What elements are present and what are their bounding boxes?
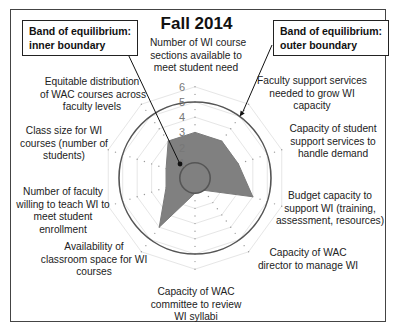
callout-inner-line2: inner boundary xyxy=(29,38,131,52)
axis-label-line: classroom space for WI xyxy=(40,254,148,267)
axis-label-line: enrollment xyxy=(12,224,114,237)
axis-label-line: Equitable distribution xyxy=(40,76,144,89)
axis-label-faculty-support: Faculty support services needed to grow … xyxy=(252,75,372,113)
axis-label-line: courses xyxy=(40,266,148,279)
axis-label-line: meet student need xyxy=(150,62,242,75)
axis-label-wi-sections: Number of WI course sections available t… xyxy=(150,37,242,75)
axis-label-budget: Budget capacity to support WI (training,… xyxy=(272,190,388,228)
callout-inner-boundary: Band of equilibrium: inner boundary xyxy=(22,20,138,56)
svg-text:3: 3 xyxy=(179,126,185,138)
axis-label-line: committee to review xyxy=(147,299,245,312)
axis-label-line: support WI (training, xyxy=(272,203,388,216)
axis-label-line: Number of WI course xyxy=(150,37,242,50)
axis-label-line: needed to grow WI xyxy=(252,88,372,101)
axis-label-classroom-space: Availability of classroom space for WI c… xyxy=(40,241,148,279)
axis-label-line: of WAC courses across xyxy=(40,89,144,102)
axis-label-line: meet student xyxy=(12,211,114,224)
axis-label-line: Capacity of student xyxy=(281,123,385,136)
svg-text:5: 5 xyxy=(179,96,185,108)
axis-label-class-size: Class size for WI courses (number of stu… xyxy=(16,125,112,163)
axis-label-line: faculty levels xyxy=(40,101,144,114)
axis-label-line: students) xyxy=(16,150,112,163)
axis-label-line: support services to xyxy=(281,136,385,149)
callout-outer-line1: Band of equilibrium: xyxy=(280,24,382,38)
svg-text:2: 2 xyxy=(179,142,185,154)
axis-label-line: WI syllabi xyxy=(147,311,245,324)
svg-text:4: 4 xyxy=(179,111,185,123)
axis-label-line: courses (number of xyxy=(16,138,112,151)
callout-outer-boundary: Band of equilibrium: outer boundary xyxy=(273,20,389,56)
axis-label-line: handle demand xyxy=(281,148,385,161)
axis-label-number-of-faculty: Number of faculty willing to teach WI to… xyxy=(12,186,114,236)
data-polygon xyxy=(159,132,253,227)
axis-label-line: assessment, resources) xyxy=(272,215,388,228)
axis-label-line: willing to teach WI to xyxy=(12,199,114,212)
axis-label-line: Capacity of WAC xyxy=(147,286,245,299)
callout-outer-line2: outer boundary xyxy=(280,38,382,52)
axis-label-line: Availability of xyxy=(40,241,148,254)
svg-text:6: 6 xyxy=(179,81,185,93)
axis-label-line: Faculty support services xyxy=(252,75,372,88)
axis-label-equitable-distribution: Equitable distribution of WAC courses ac… xyxy=(40,76,144,114)
axis-label-line: director to manage WI xyxy=(253,260,363,273)
axis-label-line: sections available to xyxy=(150,50,242,63)
axis-label-wac-committee: Capacity of WAC committee to review WI s… xyxy=(147,286,245,324)
axis-label-student-support: Capacity of student support services to … xyxy=(281,123,385,161)
axis-label-line: capacity xyxy=(252,100,372,113)
axis-label-line: Capacity of WAC xyxy=(253,247,363,260)
axis-label-wac-director: Capacity of WAC director to manage WI xyxy=(253,247,363,272)
callout-inner-line1: Band of equilibrium: xyxy=(29,24,131,38)
axis-label-line: Budget capacity to xyxy=(272,190,388,203)
axis-label-line: Class size for WI xyxy=(16,125,112,138)
axis-label-line: Number of faculty xyxy=(12,186,114,199)
